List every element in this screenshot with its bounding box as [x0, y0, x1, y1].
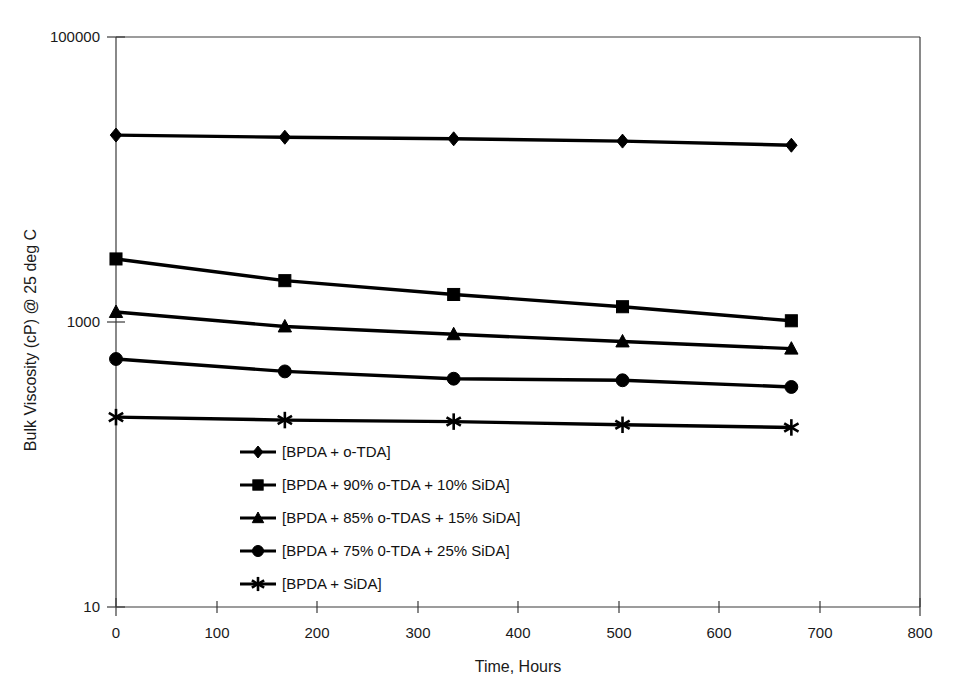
- legend-label-3: [BPDA + 75% 0-TDA + 25% SiDA]: [282, 542, 510, 559]
- legend-item-2[interactable]: [BPDA + 85% o-TDAS + 15% SiDA]: [240, 509, 520, 526]
- x-tick-label-100: 100: [204, 624, 229, 641]
- x-tick-label-200: 200: [304, 624, 329, 641]
- legend-item-4[interactable]: [BPDA + SiDA]: [240, 575, 382, 592]
- square-marker: [785, 315, 797, 327]
- x-tick-label-300: 300: [405, 624, 430, 641]
- series-0: [110, 128, 797, 152]
- chart-legend: [BPDA + o-TDA][BPDA + 90% o-TDA + 10% Si…: [240, 443, 520, 592]
- square-marker: [253, 480, 263, 490]
- series-3: [110, 353, 798, 394]
- legend-label-1: [BPDA + 90% o-TDA + 10% SiDA]: [282, 476, 510, 493]
- x-tick-label-0: 0: [112, 624, 120, 641]
- legend-label-0: [BPDA + o-TDA]: [282, 443, 391, 460]
- diamond-marker: [448, 132, 459, 146]
- circle-marker: [252, 545, 263, 556]
- y-tick-label-1000: 1000: [67, 313, 100, 330]
- circle-marker: [785, 381, 798, 394]
- line-chart: 100000 1000 10 0 100 200 300 400 500 600…: [0, 0, 973, 694]
- diamond-marker: [279, 130, 290, 144]
- diamond-marker: [786, 138, 797, 152]
- legend-label-4: [BPDA + SiDA]: [282, 575, 382, 592]
- y-axis-tick-labels: 100000 1000 10: [50, 28, 100, 615]
- diamond-marker: [253, 446, 263, 458]
- legend-item-3[interactable]: [BPDA + 75% 0-TDA + 25% SiDA]: [240, 542, 510, 559]
- series-layer: [109, 128, 799, 436]
- x-tick-label-800: 800: [907, 624, 932, 641]
- square-marker: [448, 288, 460, 300]
- x-axis-tick-labels: 0 100 200 300 400 500 600 700 800: [112, 624, 933, 641]
- circle-marker: [278, 365, 291, 378]
- legend-item-1[interactable]: [BPDA + 90% o-TDA + 10% SiDA]: [240, 476, 510, 493]
- y-tick-label-100000: 100000: [50, 28, 100, 45]
- chart-page: 100000 1000 10 0 100 200 300 400 500 600…: [0, 0, 973, 694]
- y-axis-title: Bulk Viscosity (cP) @ 25 deg C: [22, 229, 39, 451]
- circle-marker: [110, 353, 123, 366]
- y-tick-label-10: 10: [83, 598, 100, 615]
- legend-item-0[interactable]: [BPDA + o-TDA]: [240, 443, 391, 460]
- circle-marker: [447, 372, 460, 385]
- series-4: [109, 409, 799, 436]
- square-marker: [279, 275, 291, 287]
- x-tick-label-500: 500: [606, 624, 631, 641]
- diamond-marker: [617, 134, 628, 148]
- square-marker: [110, 253, 122, 265]
- diamond-marker: [110, 128, 121, 142]
- x-tick-label-700: 700: [807, 624, 832, 641]
- series-1: [110, 253, 797, 327]
- x-tick-label-600: 600: [706, 624, 731, 641]
- legend-label-2: [BPDA + 85% o-TDAS + 15% SiDA]: [282, 509, 520, 526]
- square-marker: [617, 301, 629, 313]
- circle-marker: [616, 374, 629, 387]
- x-tick-label-400: 400: [505, 624, 530, 641]
- x-axis-title: Time, Hours: [475, 658, 562, 675]
